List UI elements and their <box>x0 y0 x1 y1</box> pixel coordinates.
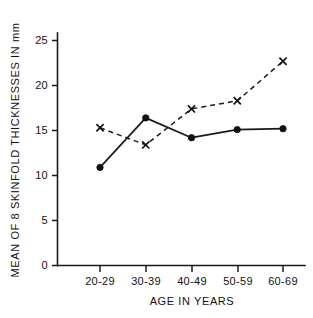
x-tick-label: 20-29 <box>85 275 115 287</box>
x-tick-label: 50-59 <box>223 275 253 287</box>
x-axis-title: AGE IN YEARS <box>150 295 235 307</box>
y-tick-label: 15 <box>35 124 48 136</box>
x-tick-label: 40-49 <box>177 275 207 287</box>
chart-plot-area: MEAN OF 8 SKINFOLD THICKNESSES IN mm 0 5… <box>0 0 313 318</box>
y-axis-ticks <box>52 41 58 266</box>
y-tick-label: 10 <box>35 169 48 181</box>
data-point-circle-icon <box>188 135 194 141</box>
x-tick-label: 30-39 <box>131 275 161 287</box>
y-tick-label: 20 <box>35 79 48 91</box>
series-line-solid-circles <box>100 118 283 167</box>
x-axis-ticks <box>100 266 283 273</box>
data-point-x-icon <box>279 58 286 65</box>
series-line-dashed-crosses <box>100 61 283 145</box>
y-tick-label: 5 <box>42 214 48 226</box>
data-point-circle-icon <box>97 164 103 170</box>
x-tick-label: 60-69 <box>268 275 298 287</box>
y-axis-tick-labels: 0 5 10 15 20 25 <box>35 34 48 271</box>
x-axis-tick-labels: 20-29 30-39 40-49 50-59 60-69 <box>85 275 298 287</box>
data-point-x-icon <box>142 141 149 148</box>
data-point-circle-icon <box>143 115 149 121</box>
data-series-layer <box>96 58 286 171</box>
data-point-circle-icon <box>280 126 286 132</box>
y-axis-title: MEAN OF 8 SKINFOLD THICKNESSES IN mm <box>9 23 21 278</box>
data-point-circle-icon <box>234 126 240 132</box>
chart-figure: MEAN OF 8 SKINFOLD THICKNESSES IN mm 0 5… <box>0 0 313 318</box>
y-tick-label: 0 <box>42 259 48 271</box>
series-solid-circles <box>97 115 286 171</box>
data-point-x-icon <box>96 124 103 131</box>
y-tick-label: 25 <box>35 34 48 46</box>
data-point-x-icon <box>234 97 241 104</box>
